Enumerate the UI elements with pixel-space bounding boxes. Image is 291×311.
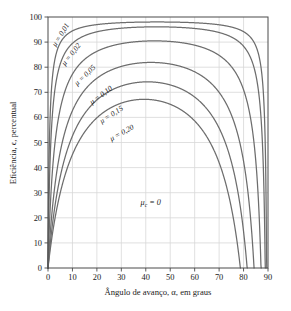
x-axis-title: Ângulo de avanço, α, em graus <box>105 287 213 297</box>
y-tick-label: 50 <box>34 139 42 148</box>
x-tick-label: 80 <box>239 273 247 282</box>
y-tick-label: 70 <box>34 88 42 97</box>
y-tick-label: 80 <box>34 63 42 72</box>
x-tick-label: 10 <box>68 273 76 282</box>
chart-figure: 0102030405060708090 01020304050607080901… <box>0 0 291 311</box>
y-tick-label: 90 <box>34 38 42 47</box>
chart-annotations: μc = 0 <box>140 198 161 208</box>
y-tick-label: 0 <box>38 264 42 273</box>
x-tick-label: 30 <box>117 273 125 282</box>
y-tick-label: 20 <box>34 214 42 223</box>
x-tick-label: 90 <box>264 273 272 282</box>
x-tick-label: 50 <box>166 273 174 282</box>
x-tick-label: 70 <box>215 273 223 282</box>
y-tick-label: 10 <box>34 239 42 248</box>
efficiency-chart: 0102030405060708090 01020304050607080901… <box>0 0 291 311</box>
y-tick-label: 30 <box>34 189 42 198</box>
annotation-mu-c-zero: μc = 0 <box>140 198 161 208</box>
y-axis-title: Eficiência, ϵ, percentual <box>8 101 18 184</box>
annotation-text: μc = 0 <box>140 198 161 208</box>
x-tick-label: 0 <box>46 273 50 282</box>
x-tick-label: 40 <box>142 273 150 282</box>
y-tick-label: 100 <box>29 13 42 22</box>
x-tick-label: 20 <box>93 273 101 282</box>
x-tick-label: 60 <box>190 273 198 282</box>
y-tick-label: 40 <box>34 164 42 173</box>
y-tick-label: 60 <box>34 113 42 122</box>
